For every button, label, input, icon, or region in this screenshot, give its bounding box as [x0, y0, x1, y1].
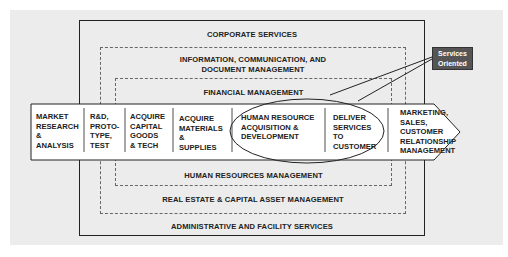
- step-line: ACQUISITION &: [241, 123, 314, 133]
- step-line: GOODS: [130, 131, 165, 141]
- callout-line2: Oriented: [433, 59, 472, 69]
- step-line: & TECH: [130, 141, 165, 151]
- step-market-research: MARKET RESEARCH & ANALYSIS: [36, 112, 79, 150]
- step-line: ACQUIRE: [179, 114, 223, 124]
- step-line: &: [179, 133, 223, 143]
- services-oriented-callout: Services Oriented: [432, 47, 473, 70]
- step-line: DELIVER: [333, 113, 376, 123]
- step-line: SALES,: [400, 118, 456, 128]
- step-acquire-materials: ACQUIRE MATERIALS & SUPPLIES: [179, 114, 223, 152]
- step-human-resource: HUMAN RESOURCE ACQUISITION & DEVELOPMENT: [241, 113, 314, 142]
- step-line: MARKET: [36, 112, 79, 122]
- step-acquire-capital: ACQUIRE CAPITAL GOODS & TECH: [130, 112, 165, 150]
- step-line: DEVELOPMENT: [241, 132, 314, 142]
- step-line: PROTO-: [90, 122, 119, 132]
- step-line: MARKETING,: [400, 108, 456, 118]
- step-line: TEST: [90, 141, 119, 151]
- step-line: SERVICES: [333, 123, 376, 133]
- step-line: CUSTOMER: [333, 142, 376, 152]
- step-line: SUPPLIES: [179, 143, 223, 153]
- step-line: HUMAN RESOURCE: [241, 113, 314, 123]
- step-line: MATERIALS: [179, 124, 223, 134]
- step-line: &: [36, 131, 79, 141]
- step-line: MANAGEMENT: [400, 146, 456, 156]
- callout-line1: Services: [433, 49, 472, 59]
- step-line: TYPE,: [90, 131, 119, 141]
- step-rnd: R&D, PROTO- TYPE, TEST: [90, 112, 119, 150]
- callout-line-upper: [330, 57, 432, 95]
- step-line: RELATIONSHIP: [400, 137, 456, 147]
- step-line: ANALYSIS: [36, 141, 79, 151]
- step-line: R&D,: [90, 112, 119, 122]
- step-line: TO: [333, 132, 376, 142]
- step-marketing-sales: MARKETING, SALES, CUSTOMER RELATIONSHIP …: [400, 108, 456, 156]
- step-line: CUSTOMER: [400, 127, 456, 137]
- step-line: RESEARCH: [36, 122, 79, 132]
- step-line: CAPITAL: [130, 122, 165, 132]
- step-deliver-services: DELIVER SERVICES TO CUSTOMER: [333, 113, 376, 151]
- step-line: ACQUIRE: [130, 112, 165, 122]
